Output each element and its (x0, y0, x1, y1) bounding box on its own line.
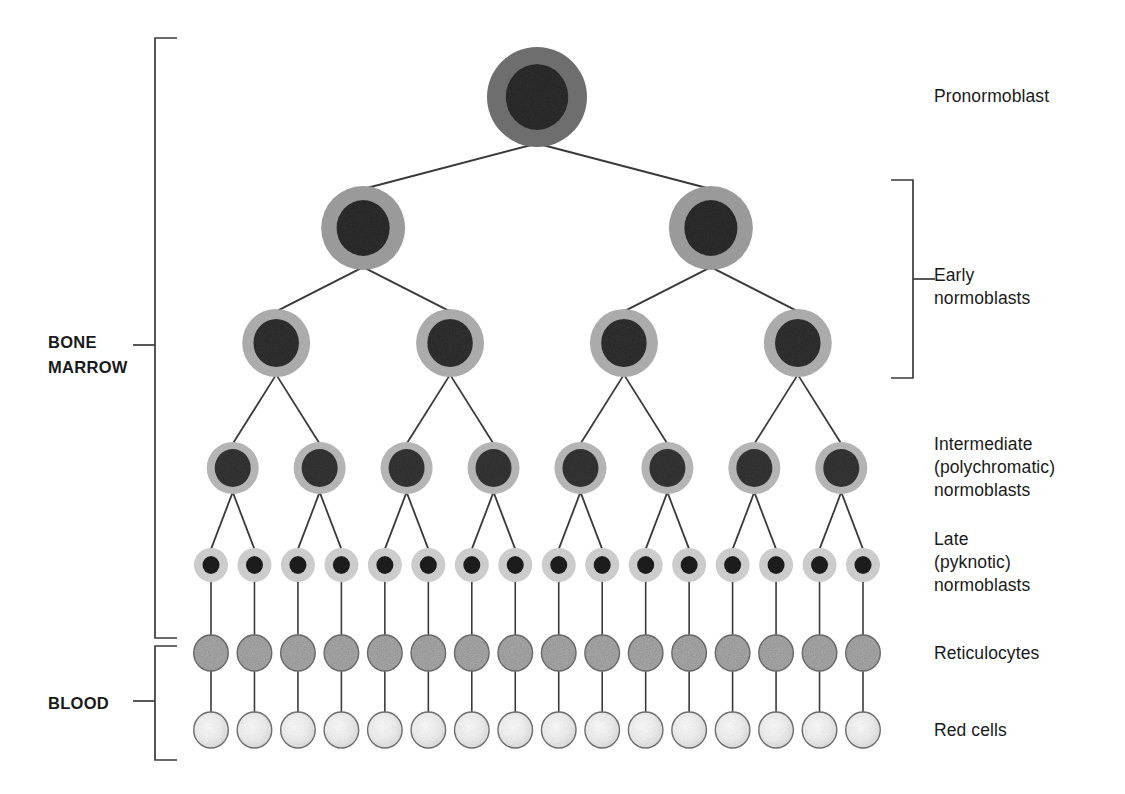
cell-nucleus (302, 449, 338, 487)
connector-line (711, 267, 798, 311)
cell-row-late-12 (672, 548, 706, 582)
connector-line (320, 492, 342, 549)
cell-row-late-9 (542, 548, 576, 582)
cell-row-red-cells-12 (672, 712, 707, 748)
cell-row-early-1 (321, 186, 405, 270)
connector-line (624, 375, 667, 444)
cell-row-reticulocytes-6 (411, 635, 446, 671)
connector-line (407, 492, 429, 549)
stage-label-intermediate-normoblasts: Intermediate (polychromatic) normoblasts (934, 433, 1125, 502)
cell-cytoplasm (281, 712, 316, 748)
cell-row-late-5 (368, 548, 402, 582)
cell-row-row-late (194, 548, 880, 582)
cell-cytoplasm (324, 635, 359, 671)
cell-nucleus (768, 556, 785, 574)
cell-cytoplasm (759, 712, 794, 748)
cell-nucleus (684, 200, 737, 256)
connector-line (233, 492, 255, 549)
cell-nucleus (594, 556, 611, 574)
cell-nucleus (420, 556, 437, 574)
cell-cytoplasm (541, 635, 576, 671)
stage-label-late-normoblasts: Late (pyknotic) normoblasts (934, 528, 1125, 597)
stage-label-red-cells: Red cells (934, 719, 1125, 742)
cell-cytoplasm (802, 635, 837, 671)
cell-nucleus (507, 556, 524, 574)
connector-line (820, 492, 842, 549)
cell-nucleus (811, 556, 828, 574)
cell-row-intermediate-1 (207, 442, 259, 494)
cell-nucleus (376, 556, 393, 574)
connector-line (472, 492, 494, 549)
cell-row-red-cells-1 (194, 712, 229, 748)
connector-line (233, 375, 276, 444)
lineage-connectors (211, 144, 863, 714)
erythropoiesis-diagram (0, 0, 1125, 794)
cell-cytoplasm (846, 712, 881, 748)
cell-cytoplasm (194, 635, 229, 671)
connector-line (211, 492, 233, 549)
cell-row-reticulocytes-5 (368, 635, 403, 671)
cell-cytoplasm (715, 635, 750, 671)
cell-row-intermediate-6 (641, 442, 693, 494)
cell-row-late-1 (194, 548, 228, 582)
cell-row-late-7 (455, 548, 489, 582)
cell-row-reticulocytes-1 (194, 635, 229, 671)
connector-line (646, 492, 668, 549)
cell-cytoplasm (455, 712, 490, 748)
cell-nucleus (775, 319, 821, 367)
cell-nucleus (337, 200, 390, 256)
cell-cytoplasm (628, 712, 663, 748)
cell-row-reticulocytes-10 (585, 635, 620, 671)
cell-row-reticulocytes-14 (759, 635, 794, 671)
connector-line (754, 375, 797, 444)
connector-line (754, 492, 776, 549)
cell-row-row-intermediate (207, 442, 868, 494)
cell-cytoplasm (672, 635, 707, 671)
cell-row-late-6 (411, 548, 445, 582)
connector-line (363, 144, 537, 189)
cell-row-late-14 (759, 548, 793, 582)
cell-cytoplasm (585, 635, 620, 671)
connector-line (494, 492, 516, 549)
cell-row-intermediate-4 (468, 442, 520, 494)
cell-nucleus (649, 449, 685, 487)
cell-row-reticulocytes-3 (281, 635, 316, 671)
cell-nucleus (202, 556, 219, 574)
cell-cytoplasm (541, 712, 576, 748)
cell-cytoplasm (802, 712, 837, 748)
cell-row-reticulocytes-2 (237, 635, 272, 671)
cell-row-red-cells-10 (585, 712, 620, 748)
cell-nucleus (637, 556, 654, 574)
cell-nucleus (506, 64, 569, 130)
connector-line (733, 492, 755, 549)
cell-cytoplasm (411, 712, 446, 748)
cell-nucleus (427, 319, 473, 367)
cell-row-reticulocytes-16 (846, 635, 881, 671)
connector-line (559, 492, 581, 549)
connector-line (363, 267, 450, 311)
cell-row-reticulocytes-11 (628, 635, 663, 671)
cell-row-red-cells-13 (715, 712, 750, 748)
cell-row-reticulocytes-15 (802, 635, 837, 671)
region-label-blood: BLOOD (48, 691, 168, 716)
cell-row-intermediate-7 (728, 442, 780, 494)
connector-line (841, 492, 863, 549)
cell-nucleus (724, 556, 741, 574)
cell-cytoplasm (672, 712, 707, 748)
cell-row-late-2 (237, 548, 271, 582)
connector-line (450, 375, 493, 444)
bracket-spine (891, 180, 913, 378)
connector-line (385, 492, 407, 549)
diagram-canvas: BONE MARROW BLOOD Pronormoblast Early no… (0, 0, 1125, 794)
cell-row-reticulocytes-7 (455, 635, 490, 671)
cell-nucleus (736, 449, 772, 487)
cell-row-red-cells-7 (455, 712, 490, 748)
cell-cytoplasm (281, 635, 316, 671)
cell-row-late-11 (629, 548, 663, 582)
cell-row-red-cells-2 (237, 712, 272, 748)
cell-nucleus (823, 449, 859, 487)
cell-cytoplasm (498, 712, 533, 748)
cell-row-red-cells-9 (541, 712, 576, 748)
cell-nucleus (681, 556, 698, 574)
cell-nucleus (601, 319, 647, 367)
